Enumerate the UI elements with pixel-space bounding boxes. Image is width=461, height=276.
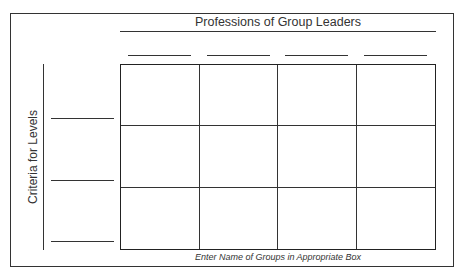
instruction-footnote: Enter Name of Groups in Appropriate Box — [120, 252, 436, 262]
grid-cell-r2-c2[interactable] — [200, 126, 279, 187]
grid-cell-r1-c4[interactable] — [357, 65, 436, 126]
group-grid — [120, 64, 436, 250]
y-axis-line — [43, 64, 44, 250]
grid-cell-r1-c3[interactable] — [278, 65, 357, 126]
row-label-blank-3[interactable] — [51, 241, 114, 242]
grid-cell-r2-c4[interactable] — [357, 126, 436, 187]
grid-cell-r3-c2[interactable] — [200, 188, 279, 249]
diagram-title: Professions of Group Leaders — [120, 15, 436, 29]
grid-cell-r2-c1[interactable] — [121, 126, 200, 187]
grid-cell-r3-c3[interactable] — [278, 188, 357, 249]
grid-cell-r3-c4[interactable] — [357, 188, 436, 249]
column-header-blank-1[interactable] — [128, 55, 191, 56]
row-label-blank-1[interactable] — [51, 118, 114, 119]
column-header-blank-4[interactable] — [364, 55, 427, 56]
y-axis-label: Criteria for Levels — [26, 110, 40, 204]
grid-cell-r3-c1[interactable] — [121, 188, 200, 249]
column-header-blank-2[interactable] — [207, 55, 270, 56]
grid-cell-r1-c1[interactable] — [121, 65, 200, 126]
column-header-blank-3[interactable] — [285, 55, 348, 56]
title-underline — [120, 31, 436, 32]
row-label-blank-2[interactable] — [51, 180, 114, 181]
grid-cell-r1-c2[interactable] — [200, 65, 279, 126]
grid-cell-r2-c3[interactable] — [278, 126, 357, 187]
